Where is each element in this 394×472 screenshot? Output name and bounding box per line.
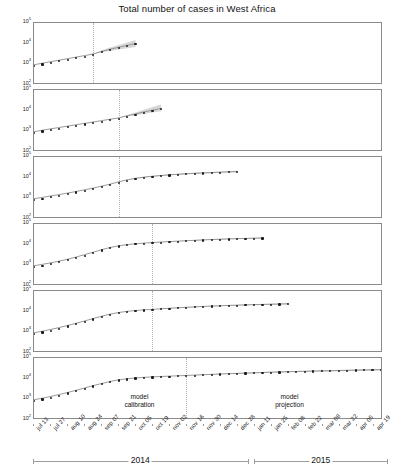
plot-area — [34, 291, 381, 351]
data-point — [50, 62, 52, 64]
y-tick-label: 105 — [3, 287, 31, 292]
data-point — [151, 309, 153, 311]
series-canvas — [34, 90, 381, 150]
panel-5 — [33, 290, 382, 352]
data-point — [244, 372, 246, 374]
x-tick-mark — [237, 424, 238, 426]
data-point — [126, 116, 128, 118]
data-point — [236, 305, 238, 307]
data-point — [41, 265, 43, 267]
y-tick-label: 104 — [3, 308, 31, 313]
series-canvas — [34, 157, 381, 217]
data-point — [244, 238, 246, 240]
y-tick-label: 105 — [3, 220, 31, 225]
plot-area — [34, 224, 381, 284]
y-tick-label: 104 — [3, 107, 31, 112]
data-point — [118, 182, 120, 184]
data-point — [41, 331, 43, 333]
data-point — [151, 376, 153, 378]
year-cap — [254, 459, 255, 464]
y-tick-label: 103 — [3, 194, 31, 199]
x-tick-mark — [271, 424, 272, 426]
year-cap — [387, 459, 388, 464]
data-point — [194, 375, 196, 377]
y-tick-label: 104 — [3, 375, 31, 380]
confidence-band — [34, 40, 136, 65]
data-point — [67, 59, 69, 61]
x-tick-mark — [152, 424, 153, 426]
series-canvas — [34, 291, 381, 351]
confidence-band — [34, 369, 381, 400]
data-point — [41, 130, 43, 132]
plot-area — [34, 23, 381, 83]
data-point — [261, 237, 263, 239]
data-point — [270, 372, 272, 374]
x-tick-mark — [135, 424, 136, 426]
annotation-line-1: model — [275, 393, 304, 401]
x-tick-mark — [33, 424, 34, 426]
calibration-projection-divider — [93, 23, 94, 83]
year-label-2015: 2015 — [309, 455, 332, 465]
plot-area — [34, 358, 381, 418]
y-axis-labels-3: 105104103102 — [0, 156, 31, 218]
data-point — [228, 305, 230, 307]
y-tick-label: 105 — [3, 19, 31, 24]
data-point — [211, 172, 213, 174]
x-tick-mark — [288, 424, 289, 426]
data-point — [151, 110, 153, 112]
data-point — [101, 249, 103, 251]
data-point — [50, 397, 52, 399]
calibration-projection-divider — [152, 291, 153, 351]
calibration-projection-divider — [119, 157, 120, 217]
x-tick-mark — [84, 424, 85, 426]
data-point — [261, 372, 263, 374]
year-axis: 20142015 — [0, 455, 394, 472]
y-axis-labels-6: 105104103102 — [0, 357, 31, 419]
x-tick-mark — [118, 424, 119, 426]
data-point — [211, 239, 213, 241]
confidence-band — [34, 237, 263, 265]
y-tick-label: 103 — [3, 395, 31, 400]
data-point — [84, 321, 86, 323]
x-tick-mark — [305, 424, 306, 426]
y-tick-label: 103 — [3, 328, 31, 333]
data-point — [151, 176, 153, 178]
model-line — [34, 172, 237, 199]
panel-4 — [33, 223, 382, 285]
data-point — [168, 174, 170, 176]
data-point — [50, 330, 52, 332]
data-point — [168, 241, 170, 243]
x-tick-mark — [101, 424, 102, 426]
data-point — [380, 369, 381, 371]
calibration-projection-divider — [119, 90, 120, 150]
data-point — [101, 186, 103, 188]
figure-root: Total number of cases in West Africa jul… — [0, 0, 394, 472]
y-axis-labels-2: 105104103102 — [0, 89, 31, 151]
series-canvas — [34, 23, 381, 83]
data-point — [126, 180, 128, 182]
data-point — [101, 316, 103, 318]
x-tick-mark — [254, 424, 255, 426]
x-tick-mark — [322, 424, 323, 426]
y-axis-labels-5: 105104103102 — [0, 290, 31, 352]
data-point — [84, 388, 86, 390]
data-point — [278, 303, 280, 305]
data-point — [261, 304, 263, 306]
x-tick-mark — [186, 424, 187, 426]
data-point — [211, 305, 213, 307]
calibration-projection-divider — [186, 358, 187, 418]
data-point — [41, 63, 43, 65]
data-point — [118, 47, 120, 49]
data-point — [126, 378, 128, 380]
data-point — [278, 371, 280, 373]
confidence-band — [34, 104, 161, 131]
data-point — [134, 377, 136, 379]
model-line — [34, 238, 263, 266]
data-point — [151, 242, 153, 244]
data-point — [355, 369, 357, 371]
y-tick-label: 104 — [3, 174, 31, 179]
plot-area — [34, 90, 381, 150]
data-point — [143, 309, 145, 311]
panel-1 — [33, 22, 382, 84]
data-point — [168, 376, 170, 378]
